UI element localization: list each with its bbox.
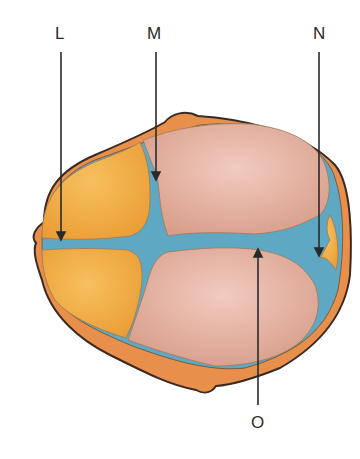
label-O: O	[251, 413, 264, 433]
label-M: M	[147, 24, 161, 44]
parietal-bone-lower	[128, 248, 318, 366]
parietal-bone-upper	[143, 124, 329, 236]
label-N: N	[313, 24, 325, 44]
label-L: L	[55, 24, 64, 44]
skull-diagram	[0, 0, 360, 459]
frontal-bone-left-lower	[42, 249, 142, 339]
